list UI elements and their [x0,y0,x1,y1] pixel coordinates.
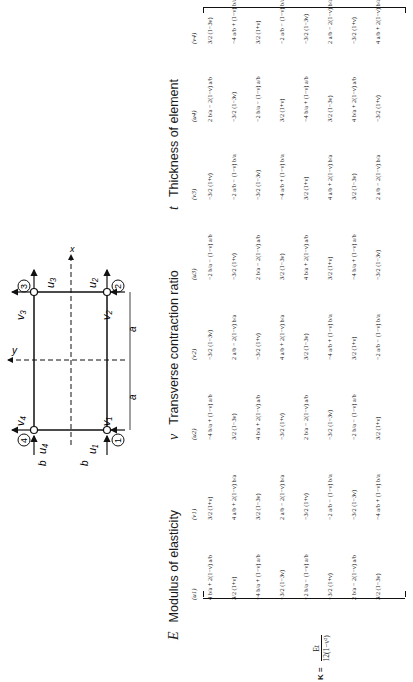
matrix-cell: 3/2 (1−3ν) [278,253,285,280]
matrix-cell: −3/2 (1−3ν) [302,14,309,44]
legend-symbol: t [166,206,181,210]
legend-t: tThickness of element [166,79,182,210]
matrix-cell: 2 b/a − 2(1−ν) a/b [350,555,357,600]
col-header-v4: (v4) [190,33,198,44]
matrix-cell: −3/2 (1−3ν) [374,250,381,280]
matrix-cell: −3/2 (1−3ν) [350,490,357,520]
matrix-cell: −2 a/b − (1−ν) b/a [326,474,333,520]
node-2-label: 2 [113,284,123,289]
matrix-cell: −4 b/a + (1−ν) a/b [206,394,213,440]
matrix-cell: −2 b/a − (1−ν) a/b [206,234,213,280]
legend-E: EModulus of elasticity [166,510,182,640]
matrix-factor: K = Et 12(1−ν²) [312,635,331,680]
col-header-v1: (v1) [190,509,198,520]
matrix-cell: 4 a/b + 2(1−ν) b/a [326,155,333,200]
v4-label: v₄ [14,416,26,426]
matrix-cell: 2 b/a − 2(1−ν) a/b [302,395,309,440]
legend-text: Modulus of elasticity [167,510,181,623]
matrix-cell: 4 a/b + 2(1−ν) b/a [230,475,237,520]
matrix-cell: 3/2 (1−3ν) [254,493,261,520]
matrix-cell: 3/2 (1+ν) [278,99,285,122]
matrix-cell: 3/2 (1−3ν) [302,333,309,360]
col-header-u3: (u3) [190,268,198,280]
legend-symbol: ν [166,434,181,440]
u2-label: u₂ [86,277,98,288]
matrix-cell: 3/2 (1+ν) [206,497,213,520]
u1-label: u₁ [86,444,98,454]
matrix-cell: 3/2 (1+ν) [302,177,309,200]
matrix-cell: 3/2 (1−3ν) [374,573,381,600]
matrix-cell: 3/2 (1+ν) [254,21,261,44]
col-header-u2: (u2) [190,428,198,440]
v1-label: v₁ [100,417,112,427]
matrix-cell: −4 a/b + (1−ν) b/a [326,314,333,360]
matrix-cell: 3/2 (1+ν) [350,337,357,360]
y-axis-label: y [11,345,18,356]
matrix-cell: −3/2 (1+ν) [350,17,357,44]
matrix-cell: −3/2 (1−3ν) [206,330,213,360]
matrix-cell: 2 b/a − 2(1−ν) a/b [206,77,213,122]
matrix-cell: 4 a/b + 2(1−ν) b/a [374,0,381,44]
matrix-cell: 3/2 (1+ν) [374,417,381,440]
matrix-cell: −3/2 (1−3ν) [326,410,333,440]
matrix-cell: −3/2 (1−3ν) [278,570,285,600]
node-4-label: 4 [19,438,29,443]
u3-label: u₃ [44,277,56,288]
legend-text: Thickness of element [167,79,181,197]
node-1-label: 1 [113,438,123,443]
matrix-cell: −3/2 (1+ν) [206,173,213,200]
matrix-cell: 3/2 (1−3ν) [350,173,357,200]
matrix-cell: −2 b/a − (1−ν) a/b [302,554,309,600]
matrix-cell: 4 b/a + 2(1−ν) a/b [350,77,357,122]
dim-a-label: a [127,326,138,332]
col-header-v2: (v2) [190,349,198,360]
element-diagram: x y 3 2 1 4 u₃ u₂ v₃ v₂ v₄ v₁ u₄ u₁ a a … [0,240,160,470]
matrix-cell: −2 b/a − (1−ν) a/b [350,394,357,440]
factor-numerator: Et [312,635,322,661]
matrix-cell: 3/2 (1+ν) [326,257,333,280]
matrix-cell: −4 b/a + (1−ν) a/b [350,234,357,280]
legend-text: Transverse contraction ratio [167,270,181,424]
matrix-cell: 3/2 (1+ν) [230,577,237,600]
matrix-cell: −4 a/b + (1−ν) b/a [230,0,237,44]
matrix-cell: 2 a/b − 2(1−ν) b/a [326,0,333,44]
matrix-cell: −3/2 (1+ν) [254,333,261,360]
matrix-cell: −3/2 (1+ν) [278,413,285,440]
factor-denominator: 12(1−ν²) [322,635,331,661]
matrix-cell: −2 a/b − (1−ν) b/a [230,154,237,200]
matrix-cell: −4 b/a + (1−ν) a/b [302,76,309,122]
matrix-cell: −3/2 (1+ν) [302,493,309,520]
dim-b-label: b [37,460,48,466]
col-header-v3: (v3) [190,189,198,200]
u4-label: u₄ [36,443,48,454]
matrix-cell: −2 a/b − (1−ν) b/a [374,314,381,360]
matrix-cell: −4 a/b + (1−ν) b/a [374,474,381,520]
v3-label: v₃ [14,310,26,321]
matrix-cell: 2 b/a − 2(1−ν) a/b [254,235,261,280]
dim-a-label: a [127,394,138,400]
matrix-cell: −3/2 (1−3ν) [230,92,237,122]
matrix-cell: 4 b/a + 2(1−ν) a/b [206,555,213,600]
matrix-cell: −3/2 (1+ν) [374,95,381,122]
matrix-cell: 4 a/b + 2(1−ν) b/a [278,315,285,360]
matrix-cell: −2 a/b − (1−ν) b/a [278,0,285,44]
matrix-cell: −3/2 (1−3ν) [254,170,261,200]
matrix-cell: 2 a/b − 2(1−ν) b/a [374,155,381,200]
node-3-label: 3 [19,284,29,289]
matrix-cell: 3/2 (1−3ν) [206,17,213,44]
matrix-cell: 2 a/b − 2(1−ν) b/a [278,475,285,520]
matrix-cell: 3/2 (1−3ν) [326,95,333,122]
matrix-cell: 4 b/a + 2(1−ν) a/b [302,235,309,280]
matrix-cell: 3/2 (1−3ν) [230,413,237,440]
matrix-cell: 4 b/a + 2(1−ν) a/b [254,395,261,440]
matrix-symbol: K = [316,667,325,680]
matrix-cell: −4 a/b + (1−ν) b/a [278,154,285,200]
matrix-cell: −3/2 (1+ν) [230,253,237,280]
x-axis-label: x [69,244,75,254]
matrix-cell: −4 b/a + (1−ν) a/b [254,554,261,600]
legend-symbol: E [166,631,181,640]
matrix-cell: −2 b/a − (1−ν) a/b [254,76,261,122]
v2-label: v₂ [100,310,112,321]
dim-b-label: b [79,460,90,466]
matrix-cell: 2 a/b − 2(1−ν) b/a [230,315,237,360]
